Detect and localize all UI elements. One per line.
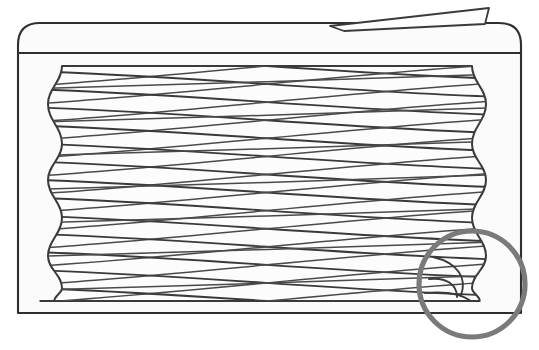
figure-root [0, 0, 539, 350]
coil-spring-line-drawing [0, 0, 539, 350]
